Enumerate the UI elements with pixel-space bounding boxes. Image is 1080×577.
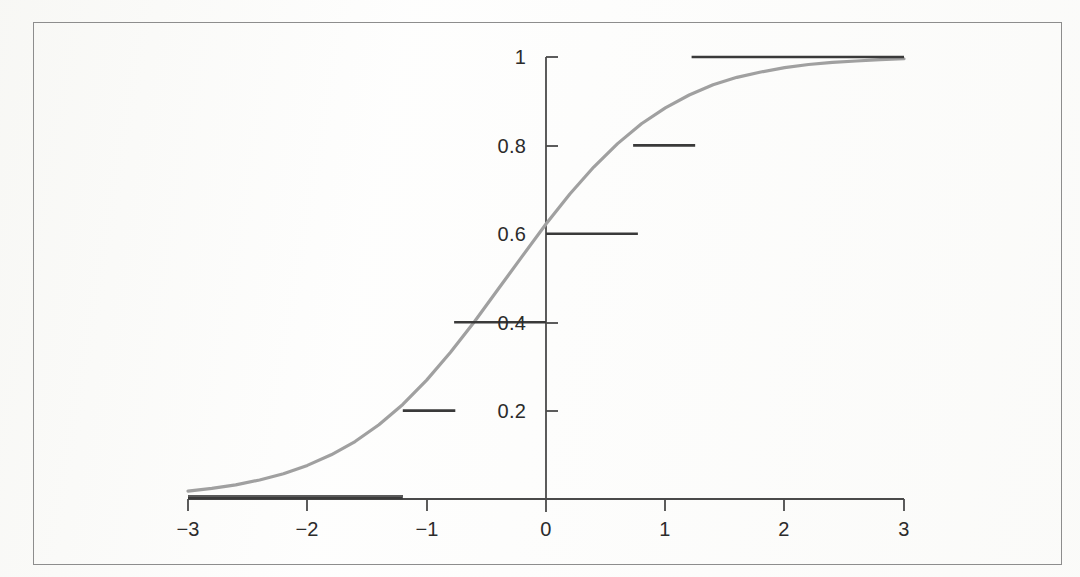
x-tick-label-2: 2 — [754, 518, 814, 541]
y-tick-label-1: 1 — [466, 46, 526, 69]
y-tick-label-0.2: 0.2 — [466, 400, 526, 423]
figure-canvas: 1 0.8 0.6 0.4 0.2 −3 −2 −1 0 1 2 3 — [0, 0, 1080, 577]
y-tick-label-0.8: 0.8 — [466, 135, 526, 158]
plot-area — [0, 0, 1080, 577]
x-tick-label--3: −3 — [158, 518, 218, 541]
x-tick-label-1: 1 — [635, 518, 695, 541]
y-tick-label-0.6: 0.6 — [466, 223, 526, 246]
x-tick-label-3: 3 — [874, 518, 934, 541]
y-tick-label-0.4: 0.4 — [466, 312, 526, 335]
x-tick-label--2: −2 — [277, 518, 337, 541]
x-tick-label--1: −1 — [397, 518, 457, 541]
x-tick-label-0: 0 — [516, 518, 576, 541]
